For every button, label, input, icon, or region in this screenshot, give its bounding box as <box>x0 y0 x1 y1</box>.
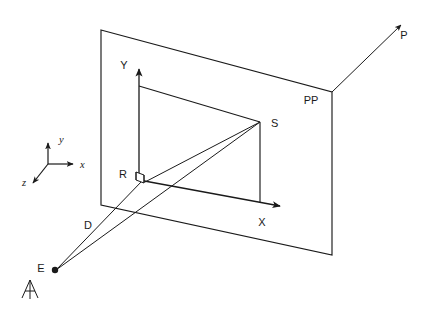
label-screen-y-axis: Y <box>120 59 128 71</box>
triad-z-axis <box>33 164 48 183</box>
label-scene-point: S <box>271 117 278 129</box>
eye-point <box>52 267 58 273</box>
label-view-distance: D <box>84 219 92 231</box>
label-eye-point: E <box>37 262 44 274</box>
projection-rays <box>56 122 260 270</box>
projected-rectangle <box>139 86 260 202</box>
perspective-projection-diagram: Y X S R D E PP P y x z <box>0 0 428 311</box>
screen-axes <box>139 69 280 206</box>
projected-rect-top-edge <box>139 86 260 122</box>
screen-x-axis <box>139 180 280 206</box>
viewer-tripod-glyph <box>22 280 38 299</box>
label-origin: R <box>119 168 127 180</box>
label-world-y-axis: y <box>58 134 64 145</box>
label-world-z-axis: z <box>21 177 26 188</box>
ray-origin-to-scene-point <box>145 122 260 182</box>
sight-ray-eye-to-scene-point <box>56 122 260 270</box>
diagram-canvas: Y X S R D E PP P y x z <box>0 0 428 311</box>
plane-normal-ray <box>332 25 401 92</box>
eye-point-dot <box>52 267 58 273</box>
origin-corner-marker <box>136 172 144 183</box>
world-axes-triad <box>33 143 73 183</box>
picture-plane <box>101 30 332 255</box>
label-picture-plane: PP <box>304 94 319 106</box>
label-world-x-axis: x <box>79 159 85 170</box>
picture-plane-quad <box>101 30 332 255</box>
view-distance-ray <box>56 181 142 270</box>
tripod-legs <box>22 280 38 299</box>
right-angle-marker-face <box>136 172 144 183</box>
diagram-labels: Y X S R D E PP P y x z <box>21 29 408 274</box>
label-plane-normal: P <box>400 29 407 41</box>
plane-normal-arrow <box>332 25 401 92</box>
label-screen-x-axis: X <box>258 216 266 228</box>
